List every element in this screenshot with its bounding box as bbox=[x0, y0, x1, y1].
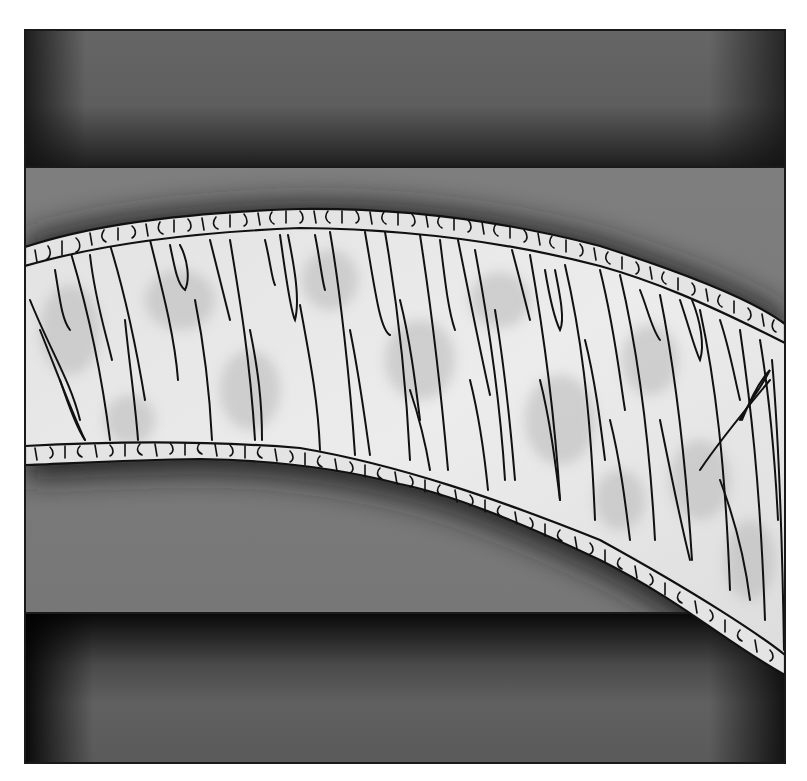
pleated-ruffle-illustration bbox=[0, 0, 807, 781]
bottom-panel bbox=[25, 613, 785, 763]
frame bbox=[25, 30, 785, 763]
top-panel bbox=[25, 30, 785, 167]
